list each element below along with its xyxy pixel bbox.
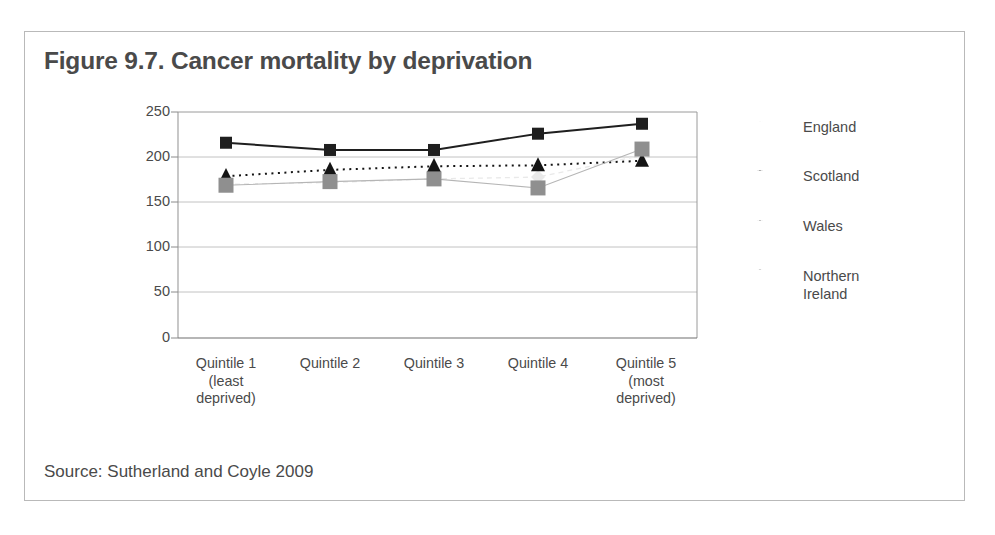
data-point-marker — [324, 144, 336, 156]
x-tick-line: Quintile 3 — [374, 355, 494, 373]
data-point-marker — [323, 162, 337, 176]
x-tick-label-quintile-5: Quintile 5 (most deprived) — [586, 355, 706, 408]
x-tick-label-quintile-3: Quintile 3 — [374, 355, 494, 373]
x-tick-line: Quintile 2 — [270, 355, 390, 373]
data-point-marker — [219, 178, 234, 193]
triangle-marker-icon — [723, 220, 797, 221]
x-tick-line: deprived) — [586, 390, 706, 408]
data-point-marker — [323, 174, 338, 189]
x-tick-line: Quintile 5 — [586, 355, 706, 373]
legend-label-line: Ireland — [803, 285, 933, 303]
source-note: Source: Sutherland and Coyle 2009 — [44, 462, 313, 482]
data-point-marker — [428, 144, 440, 156]
legend-label-line: Northern — [803, 267, 933, 285]
legend-label: England — [803, 118, 933, 136]
x-tick-line: (least — [166, 373, 286, 391]
data-point-marker — [427, 158, 441, 172]
x-tick-line: (most — [586, 373, 706, 391]
legend-label: Scotland — [803, 167, 933, 185]
data-point-marker — [531, 157, 545, 171]
square-marker-icon — [723, 269, 797, 270]
legend-label: Wales — [803, 217, 933, 235]
x-tick-label-quintile-4: Quintile 4 — [478, 355, 598, 373]
data-point-marker — [220, 137, 232, 149]
data-point-marker — [427, 171, 442, 186]
x-tick-line: Quintile 1 — [166, 355, 286, 373]
data-point-marker — [531, 180, 546, 195]
legend-label: NorthernIreland — [803, 267, 933, 303]
data-point-marker — [532, 128, 544, 140]
x-tick-label-quintile-2: Quintile 2 — [270, 355, 390, 373]
data-point-marker — [635, 142, 650, 157]
x-tick-line: deprived) — [166, 390, 286, 408]
chart-canvas: 250 200 150 100 50 0 Quintile 1 — [0, 0, 995, 535]
x-tick-line: Quintile 4 — [478, 355, 598, 373]
y-axis-ticks — [171, 112, 178, 338]
series-scotland — [220, 118, 648, 156]
data-point-marker — [636, 118, 648, 130]
square-marker-icon — [723, 170, 797, 171]
x-tick-label-quintile-1: Quintile 1 (least deprived) — [166, 355, 286, 408]
diamond-marker-icon — [723, 121, 797, 122]
gridlines — [178, 112, 697, 292]
